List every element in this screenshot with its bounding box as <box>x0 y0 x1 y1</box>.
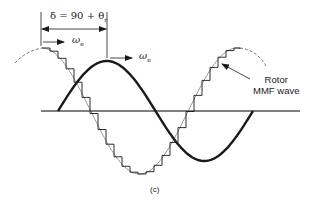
rotor-label-pointer <box>222 64 250 79</box>
mmf-diagram <box>0 0 309 208</box>
omega-label-rotor: ωe <box>72 35 84 47</box>
rotor-mmf-dashed-left <box>15 48 42 63</box>
figure-caption: (c) <box>150 186 159 194</box>
rotor-mmf-dashed-right <box>240 48 266 66</box>
delta-label: δ = 90 + θr <box>50 11 107 23</box>
omega-label-stator: ωe <box>139 51 151 63</box>
rotor-mmf-label: RotorMMF wave <box>253 74 299 96</box>
